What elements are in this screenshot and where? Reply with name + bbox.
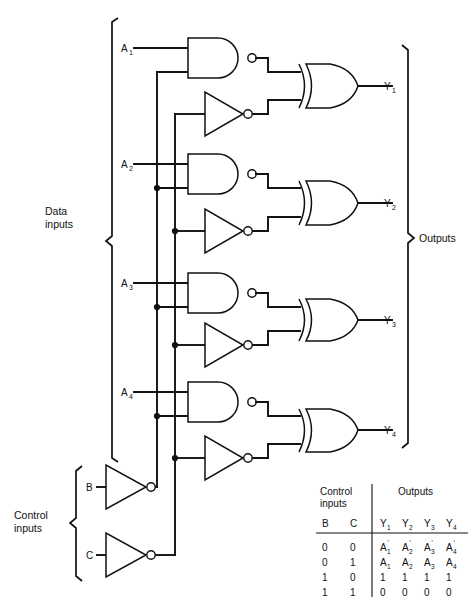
truth-table-cell: A xyxy=(424,557,431,568)
output-Y2-sub: 2 xyxy=(392,204,396,211)
nand-gate-1-bubble xyxy=(248,54,256,62)
col-header-Y1-sub: 1 xyxy=(387,524,391,531)
truth-table-group-header-control: Control inputs xyxy=(320,486,352,509)
col-header-Y2-sub: 2 xyxy=(409,524,413,531)
control-bus-b xyxy=(152,72,188,487)
control-input-B-label: B xyxy=(86,482,93,493)
control-input-C[interactable]: C xyxy=(86,533,155,577)
truth-table-cell: 0 xyxy=(322,557,328,568)
data-input-A2[interactable]: A 2 xyxy=(121,159,188,172)
data-input-A4[interactable]: A 4 xyxy=(121,387,188,400)
truth-table-cell: 0 xyxy=(402,587,408,598)
junction-dot xyxy=(154,413,160,419)
nand-gate-2[interactable] xyxy=(188,154,256,194)
truth-table-cell-subscript: 2 xyxy=(409,548,413,555)
inverter-4[interactable] xyxy=(205,436,252,480)
data-input-A1-sub: 1 xyxy=(129,49,133,56)
truth-table-cell: 1 xyxy=(402,572,408,583)
control-input-B[interactable]: B xyxy=(86,465,155,509)
control-inputs-label-line2: inputs xyxy=(14,522,42,534)
output-Y1[interactable]: Y 1 xyxy=(384,81,396,94)
output-Y1-sub: 1 xyxy=(392,87,396,94)
truth-table-cell: 1 xyxy=(322,587,328,598)
data-input-A4-sub: 4 xyxy=(129,393,133,400)
truth-table-cell: 0 xyxy=(322,542,328,553)
truth-table-cell: 1 xyxy=(322,572,328,583)
inverter-2-to-xor-wire xyxy=(253,217,300,231)
control-inputs-bracket xyxy=(70,466,82,581)
truth-table-cell: 0 xyxy=(424,587,430,598)
inverter-c-bubble xyxy=(147,551,155,559)
truth-table-cell: A xyxy=(402,557,409,568)
inverter-4-bubble xyxy=(244,454,252,462)
inverter-1-to-xor-wire xyxy=(253,100,300,114)
truth-table-cell: 0 xyxy=(446,587,452,598)
control-inputs-label: Control inputs xyxy=(14,509,48,534)
inverter-b-bubble xyxy=(147,483,155,491)
col-header-Y2: Y xyxy=(402,518,409,529)
nand-gate-2-bubble xyxy=(248,170,256,178)
inverter-3-bubble xyxy=(244,341,252,349)
truth-table-row: 00A1′A2′A3′A4′ xyxy=(322,539,457,555)
output-Y2[interactable]: Y 2 xyxy=(384,198,396,211)
output-Y1-label: Y xyxy=(384,81,391,92)
junction-dot xyxy=(154,185,160,191)
data-inputs-label: Data inputs xyxy=(45,205,73,230)
nand-gate-4[interactable] xyxy=(188,382,256,422)
outputs-bracket xyxy=(402,45,414,448)
truth-table-cell-subscript: 1 xyxy=(387,563,391,570)
outputs-group-label: Outputs xyxy=(419,232,456,244)
stage-2: Y 2 xyxy=(188,154,396,253)
data-inputs-label-line1: Data xyxy=(45,205,67,217)
control-header-line1: Control xyxy=(320,486,352,497)
truth-table-rows: 00A1′A2′A3′A4′01A1A2A3A4101111110000 xyxy=(322,539,457,598)
col-header-B: B xyxy=(322,518,329,529)
nand-gate-4-bubble xyxy=(248,398,256,406)
truth-table-cell: A xyxy=(380,542,387,553)
truth-table-cell: 0 xyxy=(380,587,386,598)
col-header-Y4: Y xyxy=(446,518,453,529)
col-header-C: C xyxy=(350,518,357,529)
xor-gate-4[interactable] xyxy=(299,409,358,452)
output-Y3[interactable]: Y 3 xyxy=(384,315,396,328)
nand-2-to-xor-wire xyxy=(256,174,300,188)
truth-table-cell-subscript: 2 xyxy=(409,563,413,570)
data-input-A3-label: A xyxy=(121,278,128,289)
truth-table: Control inputs Outputs B C Y 1 Y 2 Y 3 Y… xyxy=(316,484,468,598)
xor-gate-2[interactable] xyxy=(299,181,358,225)
data-input-A4-label: A xyxy=(121,387,128,398)
data-input-A3[interactable]: A 3 xyxy=(121,278,188,291)
truth-table-row: 110000 xyxy=(322,587,452,598)
truth-table-cell: A xyxy=(446,557,453,568)
truth-table-cell: A xyxy=(424,542,431,553)
data-input-A2-sub: 2 xyxy=(129,165,133,172)
figure-canvas: Data inputs Control inputs Outputs A 1 A… xyxy=(0,0,474,613)
truth-table-cell: A xyxy=(380,557,387,568)
col-header-Y1: Y xyxy=(380,518,387,529)
stage-3: Y 3 xyxy=(188,273,396,367)
truth-table-cell-subscript: 3 xyxy=(431,563,435,570)
inverter-2[interactable] xyxy=(205,209,252,253)
output-Y2-label: Y xyxy=(384,198,391,209)
inverter-4-to-xor-wire xyxy=(253,444,300,458)
control-input-C-label: C xyxy=(86,550,93,561)
truth-table-cell: 0 xyxy=(350,542,356,553)
inverter-1[interactable] xyxy=(205,92,252,136)
nand-3-to-xor-wire xyxy=(256,293,300,307)
data-input-A1[interactable]: A 1 xyxy=(121,43,188,56)
nand-gate-3[interactable] xyxy=(188,273,256,313)
truth-table-cell-prime: ′ xyxy=(388,539,390,546)
stage-1: Y 1 xyxy=(188,38,396,136)
xor-gate-1[interactable] xyxy=(299,64,358,108)
inverter-3-to-xor-wire xyxy=(253,331,300,345)
output-Y4[interactable]: Y 4 xyxy=(384,425,396,438)
junction-dot xyxy=(172,228,178,234)
truth-table-cell: 1 xyxy=(446,572,452,583)
data-input-A1-label: A xyxy=(121,43,128,54)
truth-table-cell-subscript: 4 xyxy=(453,563,457,570)
nand-gate-1[interactable] xyxy=(188,38,256,78)
inverter-3[interactable] xyxy=(205,323,252,367)
truth-table-cell: 0 xyxy=(350,572,356,583)
stage-4: Y 4 xyxy=(188,382,396,480)
xor-gate-3[interactable] xyxy=(299,299,358,341)
